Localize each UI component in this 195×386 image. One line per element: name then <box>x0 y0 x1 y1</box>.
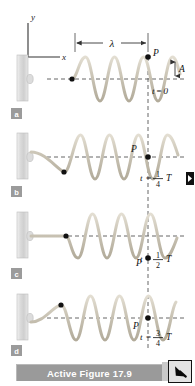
time-label-d: t = 3 4 T <box>140 329 172 348</box>
point-p-a <box>145 54 151 60</box>
side-marker-icon[interactable] <box>186 172 194 185</box>
time-label-c: t = 1 2 T <box>140 251 172 270</box>
panel-badge-label-b: b <box>14 188 19 197</box>
source-dot-c <box>63 233 68 238</box>
wall-bar-d <box>17 294 28 340</box>
active-figure-17-9: y x λ <box>0 0 195 386</box>
time-var-c: t <box>140 254 143 264</box>
time-label-a: t=0 <box>152 86 169 96</box>
y-axis-label: y <box>30 12 35 22</box>
panel-d: P t = 3 4 T d <box>11 294 186 356</box>
time-eq-d: = <box>146 332 151 342</box>
panel-badge-a: a <box>11 108 22 119</box>
panel-badge-c: c <box>11 268 22 279</box>
time-period-d: T <box>166 332 172 342</box>
point-p-label-a: P <box>152 48 159 58</box>
point-p-d <box>145 315 151 321</box>
caption-bar: Active Figure 17.9 <box>16 364 162 381</box>
wall-mount-b <box>27 152 33 161</box>
wall-bar-a <box>17 55 28 101</box>
time-eq-b: = <box>146 173 151 183</box>
source-dot-b <box>61 169 66 174</box>
wavelength-annotation: λ <box>75 33 148 52</box>
time-var-b: t <box>140 173 143 183</box>
time-var-d: t <box>140 332 143 342</box>
time-eq-c: = <box>146 254 151 264</box>
time-frac-den-b: 4 <box>156 180 160 189</box>
source-dot-a <box>69 76 74 81</box>
time-frac-num-c: 1 <box>156 251 160 260</box>
point-p-label-b: P <box>130 144 137 154</box>
panel-c: P t = 1 2 T c <box>11 212 186 279</box>
amplitude-label-a: A <box>178 64 185 74</box>
axis-lines <box>28 23 60 57</box>
panel-badge-d: d <box>11 345 22 356</box>
time-frac-den-d: 4 <box>156 339 160 348</box>
side-marker-glyph <box>187 174 193 183</box>
caption-label: Active Figure 17.9 <box>47 368 132 379</box>
cursor-arrow-icon <box>173 364 188 379</box>
coordinate-axes: y x <box>28 12 66 62</box>
time-frac-num-d: 3 <box>156 329 160 338</box>
time-frac-num-b: 1 <box>156 170 160 179</box>
time-text-a: t=0 <box>152 86 169 96</box>
panel-badge-b: b <box>11 186 22 197</box>
panel-a: P A t=0 a <box>11 48 186 119</box>
wall-b <box>17 133 33 179</box>
time-period-c: T <box>166 254 172 264</box>
wall-bar-c <box>17 212 28 258</box>
wall-bar-b <box>17 133 28 179</box>
panel-b: P t = 1 4 T b <box>11 133 186 197</box>
time-label-b: t = 1 4 T <box>140 170 172 189</box>
time-period-b: T <box>166 173 172 183</box>
wall-d <box>17 294 33 340</box>
wave-diagram-svg: y x λ <box>0 0 195 386</box>
x-axis-label: x <box>61 52 66 62</box>
cursor-pointer-button[interactable] <box>168 360 192 383</box>
time-frac-den-c: 2 <box>156 261 160 270</box>
source-dot-d <box>58 302 63 307</box>
wavelength-label: λ <box>109 37 115 49</box>
panel-badge-label-d: d <box>14 347 19 356</box>
point-p-label-d: P <box>132 321 139 331</box>
point-p-b <box>145 154 151 160</box>
panel-badge-label-c: c <box>14 270 18 279</box>
